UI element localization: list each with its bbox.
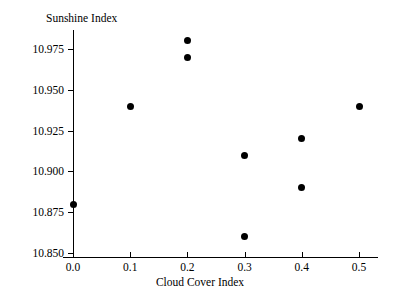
data-point xyxy=(356,103,363,110)
data-point xyxy=(184,37,191,44)
data-point xyxy=(241,152,248,159)
data-point xyxy=(298,135,305,142)
data-point xyxy=(70,201,77,208)
scatter-chart-figure: Sunshine Index Cloud Cover Index 10.8501… xyxy=(0,0,400,299)
data-point xyxy=(298,184,305,191)
data-point xyxy=(127,103,134,110)
data-point xyxy=(184,54,191,61)
plot-area xyxy=(0,0,400,299)
data-point xyxy=(241,233,248,240)
